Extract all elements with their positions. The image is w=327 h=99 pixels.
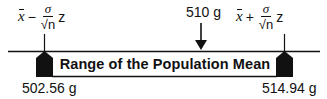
upper-bound-marker-icon	[276, 51, 293, 77]
arrow-down-icon	[195, 40, 207, 50]
range-label: Range of the Population Mean	[54, 56, 276, 72]
upper-bound-value: 514.94 g	[262, 80, 317, 96]
lower-bound-marker-icon	[36, 51, 53, 77]
lower-bound-value: 502.56 g	[22, 80, 77, 96]
